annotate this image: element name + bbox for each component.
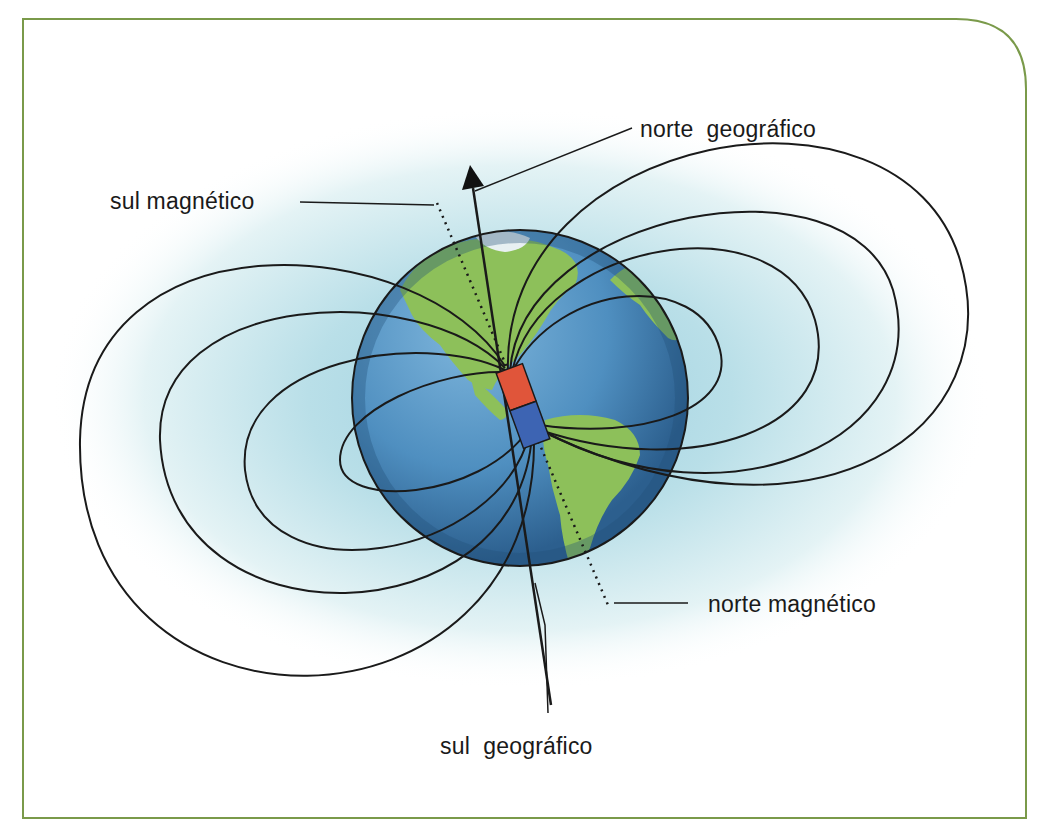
diagram-canvas — [0, 0, 1046, 832]
label-geographic-north: norte geográfico — [640, 116, 816, 143]
label-magnetic-north: norte magnético — [708, 591, 876, 618]
label-geographic-south: sul geográfico — [440, 733, 593, 760]
diagram-stage: norte geográfico sul magnético norte mag… — [0, 0, 1046, 832]
label-magnetic-south: sul magnético — [110, 188, 255, 215]
